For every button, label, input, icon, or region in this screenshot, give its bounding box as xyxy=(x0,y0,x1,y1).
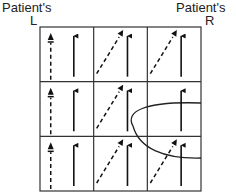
cell-r2-c1 xyxy=(97,139,128,186)
cell-r0-c1 xyxy=(97,30,128,77)
dashed-arrow-icon xyxy=(48,88,54,135)
cell-r0-c2 xyxy=(150,30,181,77)
dashed-diagonal-arrow-icon xyxy=(150,139,177,183)
dashed-arrow-icon xyxy=(48,33,54,80)
lesion-boundary xyxy=(131,103,201,158)
field-diagram xyxy=(0,0,236,196)
dashed-arrow-icon xyxy=(48,142,54,189)
cell-r1-c0 xyxy=(48,88,74,135)
cell-r1-c1 xyxy=(97,85,128,132)
dashed-diagonal-arrow-icon xyxy=(150,30,177,74)
grid-border xyxy=(40,27,201,191)
dashed-diagonal-arrow-icon xyxy=(97,139,124,183)
cell-r2-c0 xyxy=(48,142,74,189)
arrows xyxy=(48,30,181,189)
cell-r0-c0 xyxy=(48,33,74,80)
dashed-diagonal-arrow-icon xyxy=(97,85,124,129)
dashed-diagonal-arrow-icon xyxy=(97,30,124,74)
lesion-curve xyxy=(131,103,201,158)
cell-r2-c2 xyxy=(150,139,181,186)
grid xyxy=(40,27,201,191)
